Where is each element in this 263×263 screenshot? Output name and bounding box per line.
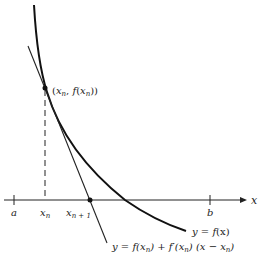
- newton-method-diagram: x (xn, f(xn)) a xn xn + 1 b y = f(x) y =…: [0, 0, 263, 263]
- tick-label-a: a: [11, 207, 17, 218]
- x-axis-arrow-icon: [240, 197, 247, 203]
- curve-label: y = f(x): [191, 226, 230, 237]
- tick-label-b: b: [207, 207, 213, 218]
- x-axis-label: x: [251, 194, 258, 207]
- point-xn-fxn: [43, 86, 48, 91]
- point-label: (xn, f(xn)): [52, 85, 98, 98]
- tangent-label: y = f(xn) + f′(xn) (x − xn): [111, 241, 234, 254]
- tick-label-xn: xn: [40, 207, 51, 220]
- point-xn1: [88, 198, 93, 203]
- tick-label-xn1: xn + 1: [66, 207, 91, 220]
